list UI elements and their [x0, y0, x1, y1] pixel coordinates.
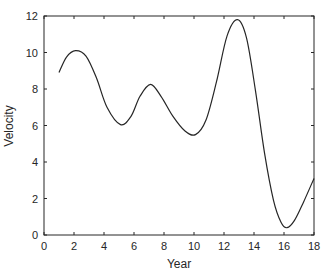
x-tick-label: 14 — [248, 240, 260, 252]
y-tick-label: 6 — [32, 120, 38, 132]
y-tick-label: 0 — [32, 229, 38, 241]
x-tick-label: 8 — [161, 240, 167, 252]
x-tick-label: 4 — [101, 240, 107, 252]
y-axis-label: Velocity — [2, 105, 16, 146]
x-tick-label: 6 — [131, 240, 137, 252]
velocity-line — [59, 20, 314, 228]
y-tick-label: 2 — [32, 193, 38, 205]
x-tick-label: 12 — [218, 240, 230, 252]
x-tick-label: 10 — [188, 240, 200, 252]
x-tick-label: 0 — [41, 240, 47, 252]
x-tick-label: 18 — [308, 240, 320, 252]
y-tick-label: 10 — [26, 47, 38, 59]
y-tick-label: 12 — [26, 10, 38, 22]
y-tick-label: 8 — [32, 83, 38, 95]
x-axis-label: Year — [167, 257, 191, 271]
y-tick-label: 4 — [32, 156, 38, 168]
x-tick-label: 16 — [278, 240, 290, 252]
x-tick-label: 2 — [71, 240, 77, 252]
line-chart: 024681012141618024681012 Year Velocity — [0, 0, 332, 275]
tick-labels: 024681012141618024681012 — [26, 10, 320, 252]
